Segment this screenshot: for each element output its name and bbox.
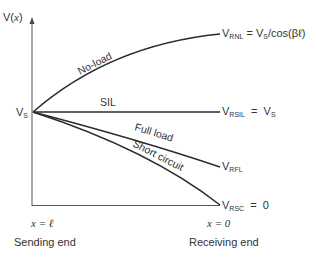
x-left-label: x = ℓ [31,217,53,229]
end-label-short-circuit: VRSC = 0 [222,199,269,212]
end-label-sil: VRSIL = VS [222,105,276,118]
receiving-end-label: Receiving end [189,236,259,248]
y-axis-label: V(x) [3,11,23,23]
end-label-full-load: VRFL [222,160,243,173]
curve-no-load [33,34,220,112]
y-axis-arrow-icon [30,17,35,24]
origin-label: VS [16,106,28,119]
end-label-no-load: VRNL = VS/cos(βℓ) [222,27,305,40]
sending-end-label: Sending end [14,236,76,248]
label-sil: SIL [100,96,116,108]
curve-full-load [33,112,220,167]
x-right-label: x = 0 [207,217,230,229]
